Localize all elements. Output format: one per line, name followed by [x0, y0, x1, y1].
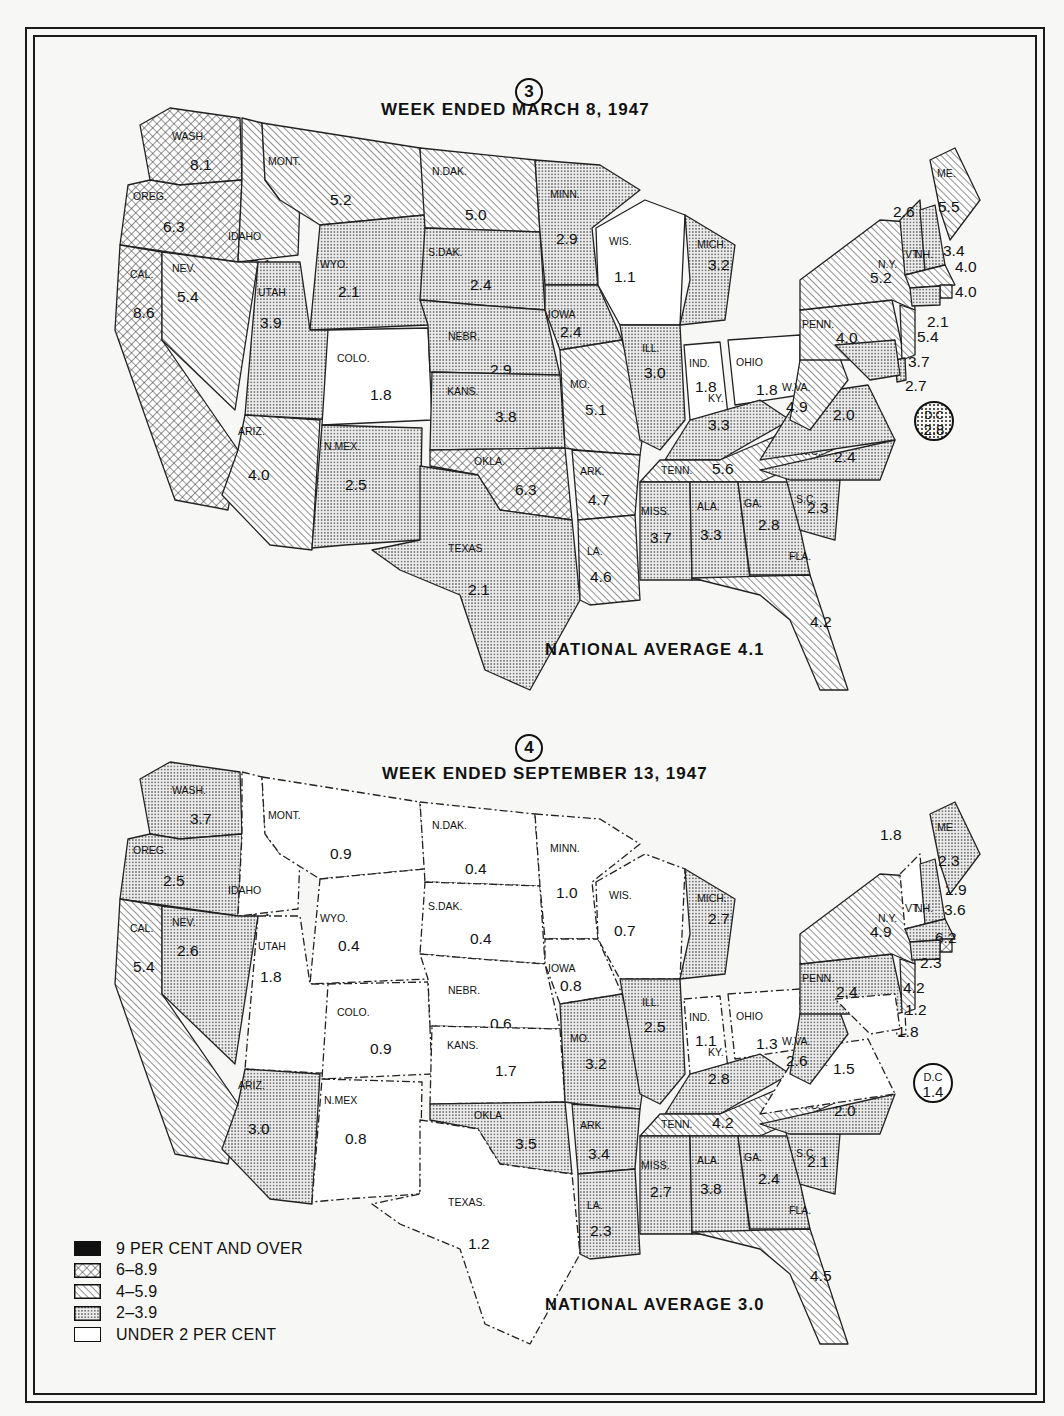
state-value: 3.2: [585, 1055, 607, 1072]
state-la: LA.2.3: [578, 1169, 640, 1259]
state-value: 3.4: [588, 1145, 610, 1162]
state-label: ARK.: [580, 1119, 605, 1131]
state-value: 2.6: [177, 942, 199, 959]
state-value: 2.7: [650, 1183, 672, 1200]
state-label: MICH.: [697, 892, 727, 904]
state-value: 1.2: [468, 1235, 490, 1252]
map-september-1947: 4 WEEK ENDED SEPTEMBER 13, 1947 WASH.3.7…: [0, 0, 1064, 1416]
state-mi: MICH.2.7: [680, 869, 735, 979]
state-ar: ARK.3.4: [572, 1104, 640, 1174]
state-value: 2.8: [708, 1070, 730, 1087]
state-value: 1.2: [905, 1001, 927, 1018]
state-co: COLO.0.9: [322, 982, 432, 1079]
state-wa: WASH.3.7: [140, 762, 242, 839]
state-value: 2.3: [590, 1222, 612, 1239]
state-value: 1.3: [756, 1035, 778, 1052]
state-label: OREG.: [133, 844, 167, 856]
state-label: ILL.: [642, 996, 660, 1008]
legend-item-9-plus: 9 PER CENT AND OVER: [74, 1238, 303, 1260]
state-nd: N.DAK.0.4: [420, 802, 540, 886]
state-value: 2.7: [708, 910, 730, 927]
state-ms: MISS.2.7: [640, 1136, 692, 1234]
state-label: NH.: [915, 902, 933, 914]
state-shape: [692, 1229, 848, 1344]
state-label: TEXAS.: [448, 1196, 485, 1208]
state-label: PENN.: [802, 972, 834, 984]
state-label: ME.: [937, 821, 956, 833]
legend: 9 PER CENT AND OVER 6–8.9 4–5.9 2–3.9 UN…: [74, 1238, 303, 1346]
state-value: 4.5: [810, 1267, 832, 1284]
blank-swatch-icon: [74, 1327, 101, 1342]
state-label: COLO.: [337, 1006, 370, 1018]
state-label: NEV.: [172, 916, 196, 928]
state-ny: N.Y.4.9: [800, 874, 915, 964]
state-shape: [572, 1104, 640, 1174]
state-label: UTAH: [258, 940, 286, 952]
legend-label: UNDER 2 PER CENT: [116, 1326, 276, 1344]
legend-item-under-2: UNDER 2 PER CENT: [74, 1324, 303, 1346]
dc-callout: D.C 1.4: [913, 1063, 953, 1103]
state-label: LA.: [587, 1199, 603, 1211]
state-shape: [800, 874, 915, 964]
state-value: 2.4: [758, 1170, 780, 1187]
state-label: IND.: [689, 1011, 710, 1023]
state-label: OKLA.: [474, 1109, 505, 1121]
state-value: 4.9: [870, 923, 892, 940]
state-ne: NEBR.0.6: [420, 954, 560, 1032]
state-value: 2.5: [163, 872, 185, 889]
state-value: 1.0: [556, 884, 578, 901]
state-value: 4.2: [903, 979, 925, 996]
state-value: 5.4: [133, 958, 155, 975]
state-nm: N.MEX0.8: [312, 1079, 422, 1202]
state-value: 0.9: [330, 845, 352, 862]
state-label: MONT.: [268, 809, 301, 821]
state-label: MO.: [570, 1032, 590, 1044]
state-value: 0.9: [370, 1040, 392, 1057]
dc-value: 1.4: [915, 1084, 951, 1100]
state-shape: [310, 869, 428, 984]
legend-label: 2–3.9: [116, 1304, 158, 1322]
state-label: N.MEX: [324, 1094, 357, 1106]
state-label: ALA.: [697, 1154, 720, 1166]
national-average: NATIONAL AVERAGE 3.0: [545, 1295, 765, 1314]
state-shape: [596, 854, 685, 979]
state-label: MINN.: [550, 842, 580, 854]
state-value: 2.6: [786, 1052, 808, 1069]
state-label: OHIO: [736, 1010, 763, 1022]
state-az: ARIZ.3.0: [222, 1069, 320, 1204]
state-value: 2.5: [644, 1018, 666, 1035]
state-wy: WYO.0.4: [310, 869, 428, 984]
state-label: MISS.: [641, 1159, 670, 1171]
solid-black-swatch-icon: [74, 1241, 101, 1256]
state-value: 0.8: [345, 1130, 367, 1147]
state-ks: KANS.1.7: [430, 1026, 565, 1104]
state-label: WASH.: [172, 784, 206, 796]
state-label: S.DAK.: [428, 900, 462, 912]
state-value: 1.8: [880, 826, 902, 843]
state-label: WIS.: [609, 889, 632, 901]
state-value: 3.6: [944, 901, 966, 918]
state-label: CAL.: [130, 922, 153, 934]
state-value: 0.8: [560, 977, 582, 994]
stipple-swatch-icon: [74, 1306, 101, 1321]
state-value: 1.8: [260, 968, 282, 985]
state-value: 0.4: [338, 937, 360, 954]
state-value: 1.8: [897, 1023, 919, 1040]
state-shape: [578, 1169, 640, 1259]
state-oh: OHIO1.3: [728, 989, 800, 1059]
state-value: 3.5: [515, 1135, 537, 1152]
state-value: 3.7: [190, 810, 212, 827]
state-label: GA.: [744, 1151, 762, 1163]
state-value: 1.7: [495, 1062, 517, 1079]
state-value: 2.1: [807, 1153, 829, 1170]
state-shape: [322, 982, 432, 1079]
legend-label: 4–5.9: [116, 1283, 158, 1301]
state-in: IND.1.1: [684, 996, 728, 1074]
legend-label: 6–8.9: [116, 1261, 158, 1279]
state-label: NEBR.: [448, 984, 480, 996]
state-label: IDAHO: [228, 884, 261, 896]
state-label: TENN.: [661, 1118, 693, 1130]
state-value: 0.4: [470, 930, 492, 947]
state-sd: S.DAK.0.4: [420, 882, 545, 964]
state-value: 4.2: [712, 1114, 734, 1131]
